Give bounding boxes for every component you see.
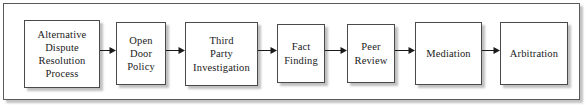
process-node-label: Third Party Investigation <box>189 34 254 74</box>
process-node-open-door-policy[interactable]: Open Door Policy <box>116 22 166 85</box>
process-node-third-party-invest[interactable]: Third Party Investigation <box>185 22 258 86</box>
connector-arrow-fact-finding-to-peer-review <box>325 46 347 55</box>
connector-arrow-peer-review-to-mediation <box>395 46 415 55</box>
process-node-arbitration[interactable]: Arbitration <box>500 22 568 85</box>
process-node-label: Peer Review <box>351 40 391 66</box>
process-node-label: Alternative Dispute Resolution Process <box>28 28 96 81</box>
diagram-canvas: Alternative Dispute Resolution ProcessOp… <box>0 0 587 108</box>
connector-arrow-third-party-invest-to-fact-finding <box>258 46 277 55</box>
connector-arrow-open-door-policy-to-third-party-invest <box>166 46 185 55</box>
process-node-adr-process[interactable]: Alternative Dispute Resolution Process <box>24 20 100 88</box>
connector-arrow-mediation-to-arbitration <box>482 46 500 55</box>
process-node-label: Open Door Policy <box>120 34 162 74</box>
process-node-peer-review[interactable]: Peer Review <box>347 24 395 83</box>
process-node-mediation[interactable]: Mediation <box>415 22 482 85</box>
process-node-label: Fact Finding <box>281 40 321 66</box>
connector-arrow-adr-process-to-open-door-policy <box>100 46 116 55</box>
process-node-fact-finding[interactable]: Fact Finding <box>277 24 325 83</box>
process-node-label: Arbitration <box>504 47 564 60</box>
process-node-label: Mediation <box>419 47 478 60</box>
